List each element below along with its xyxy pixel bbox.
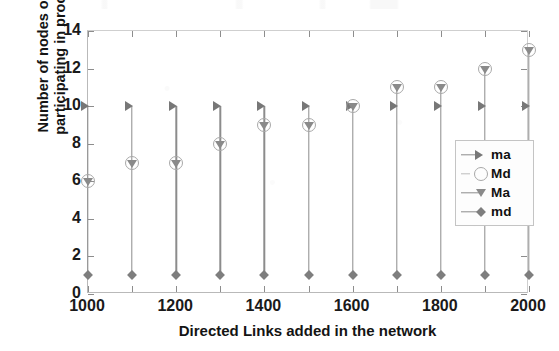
stem-line [175, 106, 176, 275]
chart-figure: Number of nodes or links participating i… [0, 0, 559, 351]
legend-label-Ma: Ma [491, 186, 510, 200]
data-point-ma [390, 101, 398, 111]
data-point-Ma [348, 103, 358, 111]
scan-artifact-band [0, 0, 559, 9]
data-point-Ma [171, 160, 181, 168]
y-axis-label-line-1: Number of nodes or links [35, 0, 52, 177]
y-tick-label-12: 12 [53, 59, 81, 77]
x-tick-1500 [309, 31, 310, 37]
data-point-Ma [304, 122, 314, 130]
data-point-md [215, 270, 225, 280]
y-tick-label-14: 14 [53, 21, 81, 39]
data-point-Ma [83, 178, 93, 186]
x-tick-1200 [176, 31, 177, 37]
chart-legend: maMdMamd [455, 140, 534, 226]
data-point-ma [213, 101, 221, 111]
stem-line [352, 106, 353, 275]
y-tick-label-2: 2 [53, 246, 81, 264]
x-tick-1800 [441, 286, 442, 292]
y-tick-12 [521, 69, 527, 70]
data-point-Ma [215, 141, 225, 149]
y-tick-4 [88, 219, 94, 220]
x-tick-1700 [397, 31, 398, 37]
y-tick-8 [88, 144, 94, 145]
data-point-ma [302, 101, 310, 111]
x-tick-1600 [353, 31, 354, 37]
x-tick-1300 [220, 31, 221, 37]
x-tick-label-1200: 1200 [157, 297, 193, 315]
y-tick-14 [521, 31, 527, 32]
x-tick-1300 [220, 286, 221, 292]
x-tick-1800 [441, 31, 442, 37]
legend-sample-Md [459, 166, 491, 182]
data-point-Ma [524, 47, 534, 55]
diamond-icon [476, 207, 486, 217]
x-tick-label-1400: 1400 [246, 297, 282, 315]
data-point-Ma [127, 160, 137, 168]
data-point-md [480, 270, 490, 280]
x-tick-2000 [529, 31, 530, 37]
x-tick-1400 [264, 31, 265, 37]
y-tick-2 [521, 256, 527, 257]
legend-label-md: md [491, 205, 512, 219]
y-tick-label-6: 6 [53, 171, 81, 189]
data-point-md [436, 270, 446, 280]
stem-line [220, 106, 221, 275]
x-tick-1000 [88, 286, 89, 292]
data-point-ma [257, 101, 265, 111]
y-tick-2 [88, 256, 94, 257]
y-tick-0 [521, 294, 527, 295]
x-tick-2000 [529, 286, 530, 292]
data-point-Ma [436, 84, 446, 92]
y-tick-label-0: 0 [53, 284, 81, 302]
data-point-md [392, 270, 402, 280]
legend-sample-Ma [459, 185, 491, 201]
legend-item-Ma: Ma [459, 183, 529, 202]
x-tick-1900 [485, 31, 486, 37]
x-tick-1100 [132, 31, 133, 37]
data-point-Ma [392, 84, 402, 92]
x-tick-1100 [132, 286, 133, 292]
y-tick-label-8: 8 [53, 134, 81, 152]
data-point-ma [478, 101, 486, 111]
triangle-right-icon [475, 150, 483, 160]
x-tick-label-2000: 2000 [510, 297, 546, 315]
x-tick-1700 [397, 286, 398, 292]
stem-line [87, 106, 88, 275]
data-point-md [348, 270, 358, 280]
legend-item-md: md [459, 202, 529, 221]
data-point-md [171, 270, 181, 280]
x-axis-label: Directed Links added in the network [87, 322, 528, 339]
data-point-ma [434, 101, 442, 111]
data-point-md [83, 270, 93, 280]
data-point-ma [125, 101, 133, 111]
legend-item-Md: Md [459, 164, 529, 183]
stem-line [396, 87, 397, 275]
x-tick-label-1800: 1800 [422, 297, 458, 315]
triangle-down-icon [476, 189, 486, 197]
y-tick-0 [88, 294, 94, 295]
legend-label-ma: ma [491, 148, 511, 162]
data-point-ma [81, 101, 89, 111]
x-tick-1600 [353, 286, 354, 292]
y-tick-label-4: 4 [53, 209, 81, 227]
data-point-md [524, 270, 534, 280]
y-tick-12 [88, 69, 94, 70]
legend-label-Md: Md [491, 167, 511, 181]
x-tick-1900 [485, 286, 486, 292]
data-point-Ma [259, 122, 269, 130]
stem-line [131, 106, 132, 275]
x-tick-1500 [309, 286, 310, 292]
data-point-ma [169, 101, 177, 111]
legend-sample-ma [459, 147, 491, 163]
data-point-md [304, 270, 314, 280]
data-point-ma [522, 101, 530, 111]
x-tick-label-1600: 1600 [334, 297, 370, 315]
circle-open-icon [474, 167, 488, 181]
legend-sample-md [459, 204, 491, 220]
data-point-Ma [480, 66, 490, 74]
stem-line [440, 87, 441, 275]
legend-item-ma: ma [459, 145, 529, 164]
x-tick-1400 [264, 286, 265, 292]
data-point-md [127, 270, 137, 280]
